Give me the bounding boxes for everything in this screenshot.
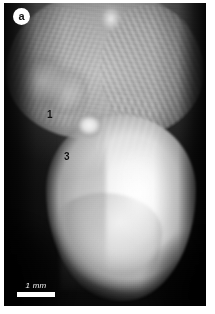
upper-tissue-mass [6,3,204,139]
corner-shadow-bottom-right [124,217,206,306]
body-specular-highlight [112,143,182,263]
film-grain [4,3,206,306]
annotation-marker-1: 1 [47,110,53,120]
annotation-marker-3: 3 [64,152,70,162]
right-shadow [4,3,206,306]
striations-right [100,5,204,133]
striations-left [10,7,106,127]
micrograph-image: a 1 3 1 mm [4,3,206,306]
bright-nodule [74,113,106,141]
scale-bar-rule [17,292,55,297]
left-shadow [4,3,206,306]
panel-label-badge: a [13,8,30,25]
striations-cross [14,3,200,119]
lower-ovoid-body [46,115,196,301]
figure-root: a 1 3 1 mm [0,0,215,314]
nodule-cluster [16,55,88,115]
duct-striations [96,95,168,181]
scale-bar-label: 1 mm [17,281,55,290]
background-field [4,3,206,306]
scale-bar: 1 mm [17,281,55,297]
apex-notch [96,3,126,33]
body-taper [50,193,162,306]
